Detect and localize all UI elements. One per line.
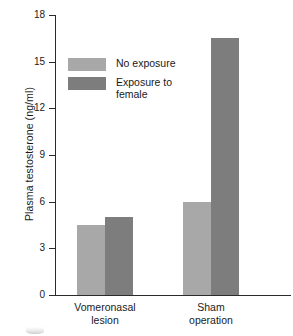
legend-swatch-no-exposure bbox=[68, 58, 106, 71]
bar bbox=[211, 38, 239, 295]
legend-item-exposure-to-female: Exposure to female bbox=[68, 77, 176, 100]
y-tick-label: 15 bbox=[7, 57, 45, 67]
bar-chart: Plasma testosterone (ng/ml) 0369121518 N… bbox=[0, 0, 293, 336]
bar bbox=[183, 202, 211, 295]
y-tick-label: 0 bbox=[7, 290, 45, 300]
y-axis-line bbox=[55, 15, 56, 296]
y-tick-mark bbox=[49, 108, 55, 109]
scan-artifact bbox=[26, 327, 44, 334]
y-tick-mark bbox=[49, 248, 55, 249]
bar bbox=[105, 217, 133, 295]
x-axis-line bbox=[55, 295, 291, 296]
bar bbox=[77, 225, 105, 295]
legend-label-no-exposure: No exposure bbox=[116, 58, 176, 70]
y-tick-label: 6 bbox=[7, 197, 45, 207]
y-tick-label: 18 bbox=[7, 10, 45, 20]
y-tick-mark bbox=[49, 62, 55, 63]
legend-label-exposure-to-female: Exposure to female bbox=[116, 77, 172, 100]
x-axis-category-label: Sham operation bbox=[161, 301, 261, 326]
y-tick-label: 9 bbox=[7, 150, 45, 160]
y-tick-mark bbox=[49, 15, 55, 16]
y-tick-mark bbox=[49, 202, 55, 203]
y-tick-mark bbox=[49, 295, 55, 296]
x-axis-category-label: Vomeronasal lesion bbox=[55, 301, 155, 326]
legend-swatch-exposure-to-female bbox=[68, 77, 106, 90]
y-tick-label: 12 bbox=[7, 103, 45, 113]
legend: No exposure Exposure to female bbox=[68, 58, 176, 106]
legend-item-no-exposure: No exposure bbox=[68, 58, 176, 71]
y-tick-mark bbox=[49, 155, 55, 156]
y-tick-label: 3 bbox=[7, 243, 45, 253]
